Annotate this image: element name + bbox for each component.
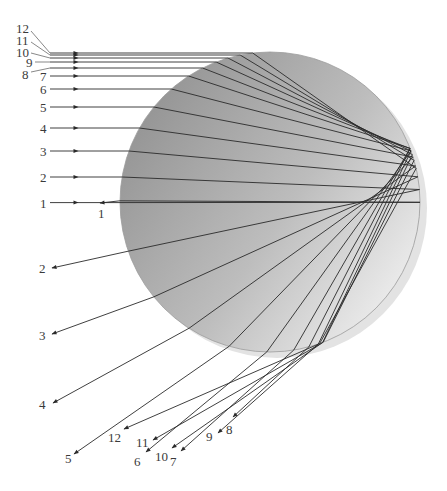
leader-line-11 xyxy=(31,42,50,55)
exit-ray-7 xyxy=(181,350,294,451)
incoming-label-7: 7 xyxy=(40,70,47,83)
leader-line-12 xyxy=(31,31,50,53)
label-leader-lines xyxy=(31,31,50,72)
exit-ray-12 xyxy=(124,344,320,429)
rainbow-diagram: 112233445566778899101011111212 xyxy=(0,0,447,491)
exit-ray-3 xyxy=(52,297,154,334)
exit-label-12: 12 xyxy=(108,431,121,444)
exit-ray-11 xyxy=(153,342,323,440)
incoming-label-4: 4 xyxy=(40,122,47,135)
exit-label-3: 3 xyxy=(39,329,46,342)
exit-label-5: 5 xyxy=(65,452,72,465)
exit-label-2: 2 xyxy=(39,262,46,275)
exit-label-4: 4 xyxy=(39,398,46,411)
exit-label-1: 1 xyxy=(98,207,105,220)
exit-label-11: 11 xyxy=(136,436,149,449)
exit-ray-10 xyxy=(172,342,323,448)
incoming-label-6: 6 xyxy=(40,83,47,96)
exit-ray-4 xyxy=(53,328,189,403)
exit-label-8: 8 xyxy=(226,423,233,436)
leader-line-10 xyxy=(31,53,50,58)
incoming-label-1: 1 xyxy=(40,197,47,210)
incoming-label-2: 2 xyxy=(40,171,47,184)
droplet-ray-diagram xyxy=(0,0,447,491)
exit-label-7: 7 xyxy=(170,455,177,468)
incoming-label-3: 3 xyxy=(40,145,47,158)
exit-label-6: 6 xyxy=(134,455,141,468)
incoming-label-5: 5 xyxy=(40,101,47,114)
exit-label-10: 10 xyxy=(155,450,168,463)
exit-label-9: 9 xyxy=(206,430,213,443)
incoming-label-12: 12 xyxy=(16,22,29,35)
exit-ray-2 xyxy=(52,251,128,268)
